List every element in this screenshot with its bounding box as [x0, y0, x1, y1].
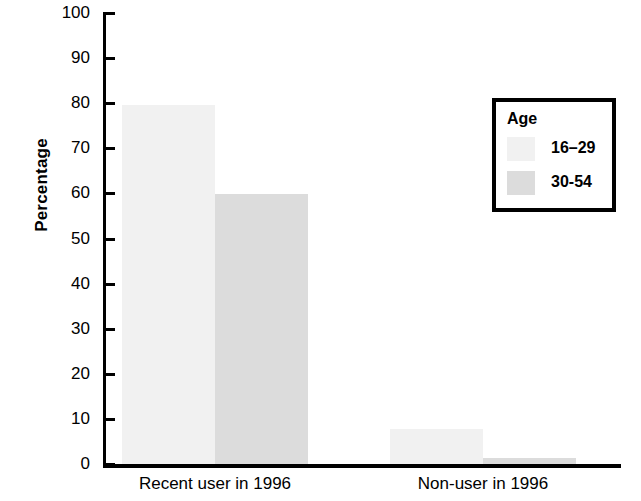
legend: Age 16–2930-54: [492, 98, 616, 212]
bar-16-29-non-user: [390, 429, 483, 464]
y-axis-tick-label: 60: [34, 184, 90, 201]
legend-entry-label: 16–29: [551, 138, 596, 158]
y-axis-tick-label: 40: [34, 275, 90, 292]
y-axis-tick-label: 10: [34, 410, 90, 427]
x-axis-line: [103, 464, 621, 468]
y-axis-tick-label: 0: [34, 455, 90, 472]
x-axis-category-label: Non-user in 1996: [373, 474, 593, 494]
legend-title: Age: [507, 110, 537, 128]
bar-16-29-recent-user: [122, 105, 215, 464]
y-axis-tick-label: 70: [34, 139, 90, 156]
legend-entry-label: 30-54: [551, 172, 592, 192]
y-axis-tick-label: 20: [34, 365, 90, 382]
bar-30-54-recent-user: [215, 194, 308, 464]
x-axis-category-label: Recent user in 1996: [105, 474, 325, 494]
y-axis-tick-label: 80: [34, 94, 90, 111]
y-axis-tick-label: 100: [34, 4, 90, 21]
legend-swatch: [507, 171, 535, 195]
y-axis-tick-label: 90: [34, 49, 90, 66]
plot-area: [104, 13, 621, 464]
legend-swatch: [507, 137, 535, 161]
bar-chart: Percentage 1009080706050403020100 Recent…: [0, 0, 641, 501]
y-axis-tick-label: 50: [34, 230, 90, 247]
y-axis-tick-label: 30: [34, 320, 90, 337]
